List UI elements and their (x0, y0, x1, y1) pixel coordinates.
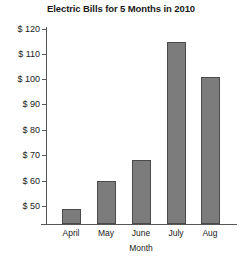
y-axis-tick-label: $ 90 (2, 99, 40, 109)
bar-may (97, 181, 116, 224)
x-axis-line (41, 224, 237, 225)
y-axis-tick-label: $ 60 (2, 176, 40, 186)
bar-july (167, 42, 186, 224)
y-axis-tick-label: $ 120 (2, 24, 40, 34)
y-axis-tick-label: $ 80 (2, 125, 40, 135)
y-axis-tick (42, 29, 47, 30)
x-axis-tick-label-june: June (132, 228, 150, 238)
chart-title: Electric Bills for 5 Months in 2010 (0, 3, 242, 14)
y-axis-tick (42, 155, 47, 156)
y-axis-line (46, 27, 47, 225)
x-axis-tick-label-may: May (98, 228, 114, 238)
y-axis-tick (42, 206, 47, 207)
y-axis-tick-label: $ 50 (2, 201, 40, 211)
y-axis-tick-label: $ 110 (2, 49, 40, 59)
y-axis-tick (42, 181, 47, 182)
bar-april (62, 209, 81, 224)
y-axis-tick (42, 54, 47, 55)
x-axis-tick-label-july: July (168, 228, 183, 238)
bar-chart: Electric Bills for 5 Months in 2010 $ 12… (0, 0, 242, 273)
y-axis-tick (42, 104, 47, 105)
y-axis-tick-label: $ 70 (2, 150, 40, 160)
x-axis-title: Month (47, 243, 235, 253)
bar-june (132, 160, 151, 224)
y-axis-tick (42, 130, 47, 131)
x-axis-tick-label-april: April (62, 228, 79, 238)
y-axis-tick (42, 79, 47, 80)
y-axis-tick-label: $ 100 (2, 74, 40, 84)
x-axis-tick-label-aug: Aug (202, 228, 217, 238)
bar-aug (201, 77, 220, 224)
